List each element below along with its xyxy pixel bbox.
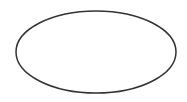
ellipse-shape <box>16 11 176 93</box>
diagram-svg <box>0 0 187 102</box>
diagram-canvas <box>0 0 187 102</box>
